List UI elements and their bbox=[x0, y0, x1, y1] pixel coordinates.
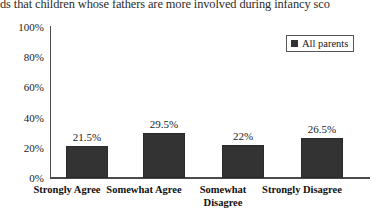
y-axis-tick-80: 80% bbox=[24, 52, 44, 63]
x-axis-label-somewhat-disagree: Somewhat Disagree bbox=[180, 184, 266, 209]
bar-group-strongly-agree: 21.5% bbox=[66, 27, 108, 178]
page-body-text-line: ds that children whose fathers are more … bbox=[0, 0, 330, 11]
y-axis-tick-20: 20% bbox=[24, 142, 44, 153]
bar-value-label-strongly-agree: 21.5% bbox=[73, 132, 101, 143]
chart-legend[interactable]: All parents bbox=[286, 35, 354, 52]
x-axis-label-somewhat-agree: Somewhat Agree bbox=[101, 184, 187, 197]
bar-somewhat-disagree[interactable] bbox=[222, 145, 264, 178]
y-axis-tick-0: 0% bbox=[29, 173, 44, 184]
bar-value-label-somewhat-disagree: 22% bbox=[233, 131, 253, 142]
x-axis-label-strongly-agree: Strongly Agree bbox=[24, 184, 110, 197]
bar-strongly-agree[interactable] bbox=[66, 146, 108, 178]
bar-value-label-strongly-disagree: 26.5% bbox=[308, 124, 336, 135]
y-axis-tick-40: 40% bbox=[24, 112, 44, 123]
page-body-text: ds that children whose fathers are more … bbox=[0, 0, 385, 14]
y-axis-tick-100: 100% bbox=[18, 22, 44, 33]
x-axis-label-strongly-disagree: Strongly Disagree bbox=[259, 184, 345, 197]
legend-square-swatch-icon bbox=[291, 40, 298, 47]
bar-group-somewhat-agree: 29.5% bbox=[143, 27, 185, 178]
bar-strongly-disagree[interactable] bbox=[301, 138, 343, 178]
y-axis-tick-60: 60% bbox=[24, 82, 44, 93]
bar-somewhat-agree[interactable] bbox=[143, 133, 185, 178]
bar-value-label-somewhat-agree: 29.5% bbox=[150, 119, 178, 130]
bar-chart: 0% 20% 40% 60% 80% 100% 21.5% 29.5% 22% … bbox=[0, 16, 385, 220]
legend-entry-label: All parents bbox=[302, 38, 348, 49]
bar-group-somewhat-disagree: 22% bbox=[222, 27, 264, 178]
